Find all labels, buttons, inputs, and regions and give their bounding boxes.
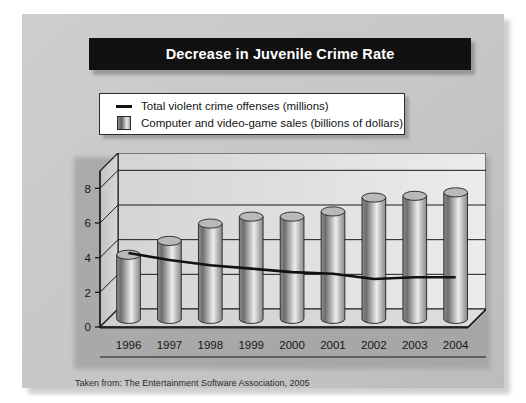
svg-text:8: 8 xyxy=(85,183,91,195)
svg-text:4: 4 xyxy=(85,252,92,264)
chart-title-bar: Decrease in Juvenile Crime Rate xyxy=(89,38,471,70)
legend-item-line: Total violent crime offenses (millions) xyxy=(114,98,404,114)
chart-legend: Total violent crime offenses (millions) … xyxy=(99,93,405,135)
x-axis-label: 1996 xyxy=(116,339,142,351)
source-caption: Taken from: The Entertainment Software A… xyxy=(75,378,309,388)
legend-label-line: Total violent crime offenses (millions) xyxy=(141,100,329,112)
svg-text:0: 0 xyxy=(85,321,91,333)
slide-canvas: Decrease in Juvenile Crime Rate Total vi… xyxy=(0,0,526,403)
legend-item-bar: Computer and video-game sales (billions … xyxy=(114,115,404,131)
x-axis-label: 2001 xyxy=(320,339,346,351)
x-axis-label: 1997 xyxy=(157,339,183,351)
x-axis-label: 2003 xyxy=(402,339,428,351)
svg-text:6: 6 xyxy=(85,217,91,229)
svg-text:2: 2 xyxy=(85,287,91,299)
bar-swatch-icon xyxy=(114,116,134,130)
chart-svg: 0246819961997199819992000200120022003200… xyxy=(70,153,486,365)
x-axis-label: 1998 xyxy=(198,339,224,351)
x-axis-label: 1999 xyxy=(238,339,264,351)
legend-label-bar: Computer and video-game sales (billions … xyxy=(141,117,403,129)
line-marker-icon xyxy=(114,105,134,108)
x-axis-label: 2002 xyxy=(361,339,387,351)
x-axis-label: 2004 xyxy=(443,339,469,351)
chart-plot: 0246819961997199819992000200120022003200… xyxy=(70,153,486,365)
page-title: Decrease in Juvenile Crime Rate xyxy=(166,46,395,62)
slide-panel: Decrease in Juvenile Crime Rate Total vi… xyxy=(22,14,504,388)
x-axis-label: 2000 xyxy=(279,339,305,351)
